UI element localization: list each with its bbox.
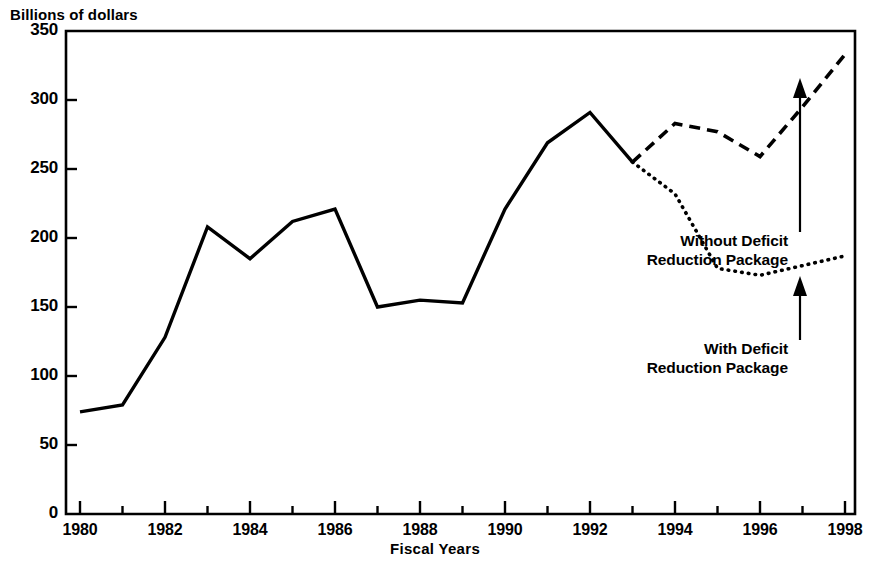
annotation-without-deficit-reduction-package: Without Deficit Reduction Package <box>603 232 788 270</box>
plot-area <box>0 0 870 565</box>
annotation-with-line2: Reduction Package <box>603 359 788 378</box>
y-tick-label: 200 <box>6 227 58 247</box>
x-tick-label: 1986 <box>305 521 365 539</box>
y-tick-label: 350 <box>6 20 58 40</box>
x-axis-tick-marks <box>80 501 845 514</box>
y-tick-label: 300 <box>6 89 58 109</box>
x-tick-label: 1992 <box>560 521 620 539</box>
x-tick-label: 1982 <box>135 521 195 539</box>
y-tick-label: 0 <box>6 503 58 523</box>
x-tick-label: 1988 <box>390 521 450 539</box>
x-tick-label: 1998 <box>815 521 870 539</box>
x-tick-label: 1984 <box>220 521 280 539</box>
x-tick-label: 1990 <box>475 521 535 539</box>
series-line-without-package <box>633 54 846 162</box>
annotation-arrow-with-package <box>793 276 807 340</box>
y-tick-label: 50 <box>6 434 58 454</box>
annotation-without-line2: Reduction Package <box>603 251 788 270</box>
y-tick-label: 150 <box>6 296 58 316</box>
x-axis-title: Fiscal Years <box>0 540 870 557</box>
x-tick-label: 1996 <box>730 521 790 539</box>
y-tick-label: 250 <box>6 158 58 178</box>
annotation-with-deficit-reduction-package: With Deficit Reduction Package <box>603 340 788 378</box>
annotation-without-line1: Without Deficit <box>603 232 788 251</box>
annotation-with-line1: With Deficit <box>603 340 788 359</box>
y-tick-label: 100 <box>6 365 58 385</box>
series-line-actual <box>80 112 633 411</box>
y-axis-tick-marks <box>66 100 77 445</box>
deficit-projection-chart: Billions of dollars 05010015020025030035… <box>0 0 870 565</box>
x-tick-label: 1980 <box>50 521 110 539</box>
x-tick-label: 1994 <box>645 521 705 539</box>
